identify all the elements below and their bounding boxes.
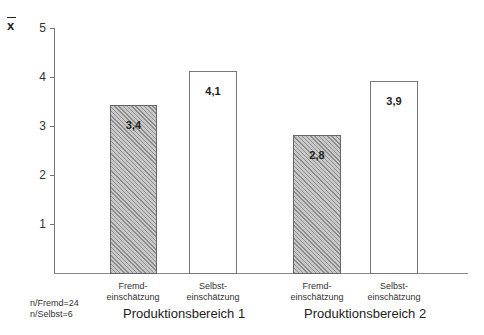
y-tick-label: 1: [36, 218, 46, 230]
y-axis-label: x: [7, 18, 14, 33]
bar-fremd-pb1: 3,4: [110, 105, 157, 274]
bar-selbst-pb2: 3,9: [370, 81, 418, 274]
bar-value-label: 2,8: [294, 149, 340, 161]
y-tick: [50, 77, 54, 78]
category-label: Selbst- einschätzung: [349, 281, 439, 303]
y-tick: [50, 175, 54, 176]
y-tick: [50, 28, 54, 29]
group-label: Produktionsbereich 1: [123, 306, 245, 321]
bar-fremd-pb2: 2,8: [293, 135, 341, 274]
y-tick-label: 3: [36, 120, 46, 132]
mean-overline: [7, 17, 16, 18]
y-tick-label: 2: [36, 169, 46, 181]
y-tick-label: 5: [36, 22, 46, 34]
y-tick: [50, 126, 54, 127]
y-axis: [54, 28, 55, 273]
sample-size-note: n/Fremd=24 n/Selbst=6: [30, 298, 79, 320]
group-label: Produktionsbereich 2: [304, 306, 426, 321]
bar-value-label: 3,9: [371, 95, 417, 107]
y-tick: [50, 224, 54, 225]
bar-value-label: 3,4: [111, 119, 156, 131]
category-label: Fremd- einschätzung: [88, 281, 178, 303]
bar-selbst-pb1: 4,1: [189, 71, 237, 274]
y-tick-label: 4: [36, 71, 46, 83]
category-label: Selbst- einschätzung: [168, 281, 258, 303]
bar-value-label: 4,1: [190, 85, 236, 97]
